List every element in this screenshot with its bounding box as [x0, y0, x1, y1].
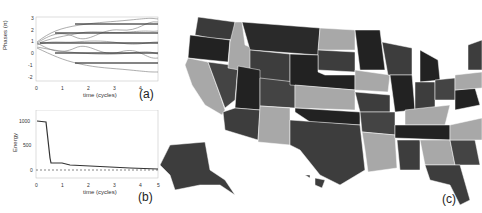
x-tick: 0 [35, 182, 38, 188]
us-map [150, 0, 482, 213]
x-axis-label: time (cycles) [83, 92, 117, 98]
y-tick: 1 [31, 38, 34, 44]
energy-plot [0, 110, 160, 213]
panel-c: (c) [150, 0, 482, 213]
y-tick: -2 [28, 74, 32, 80]
x-tick: 2 [87, 85, 90, 91]
y-tick: 0 [30, 167, 33, 173]
x-tick: 3 [113, 182, 116, 188]
y-tick: 1000 [19, 118, 30, 124]
x-tick: 3 [113, 85, 116, 91]
panel-label-c: (c) [442, 192, 456, 206]
panel-b: 1000 500 0 0 1 2 3 4 5 time (cycles) Ene… [0, 110, 160, 213]
y-tick: 0 [31, 50, 34, 56]
x-tick: 1 [61, 182, 64, 188]
x-tick: 2 [87, 182, 90, 188]
x-tick: 1 [61, 85, 64, 91]
x-axis-label: time (cycles) [83, 189, 117, 195]
y-axis-label: Energy [12, 133, 18, 152]
x-tick: 4 [139, 182, 142, 188]
y-tick: 2 [31, 27, 34, 33]
y-tick: -1 [28, 62, 32, 68]
x-tick: 0 [35, 85, 38, 91]
y-tick: 500 [23, 142, 31, 148]
phase-plot [0, 0, 160, 100]
panel-a: 3 2 1 0 -1 -2 0 1 2 3 4 time (cycles) Ph… [0, 0, 160, 100]
y-tick: 3 [31, 15, 34, 21]
y-axis-label: Phases (π) [2, 0, 8, 50]
